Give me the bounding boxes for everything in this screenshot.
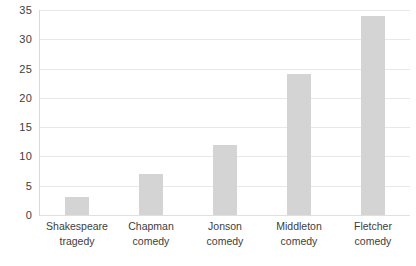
bar[interactable]: [65, 197, 89, 215]
bar-slot: [40, 10, 114, 215]
y-axis-tick-label: 15: [0, 122, 32, 133]
y-axis-tick-label: 5: [0, 180, 32, 191]
x-axis-tick-label: Fletcher comedy: [336, 219, 410, 265]
y-axis-tick-label: 20: [0, 92, 32, 103]
y-axis-tick-label: 30: [0, 34, 32, 45]
bars-layer: [40, 10, 410, 215]
bar-slot: [114, 10, 188, 215]
y-axis-tick-label: 10: [0, 151, 32, 162]
x-axis-tick-label: Jonson comedy: [188, 219, 262, 265]
plot-area: [40, 10, 410, 215]
bar-slot: [262, 10, 336, 215]
bar-chart: 05101520253035 Shakespeare tragedyChapma…: [0, 0, 416, 266]
bar[interactable]: [139, 174, 163, 215]
y-axis-tick-label: 35: [0, 5, 32, 16]
x-axis-tick-label: Shakespeare tragedy: [40, 219, 114, 265]
x-axis-tick-label: Chapman comedy: [114, 219, 188, 265]
bar[interactable]: [213, 145, 237, 215]
x-axis: Shakespeare tragedyChapman comedyJonson …: [40, 219, 410, 265]
bar[interactable]: [361, 16, 385, 215]
y-axis: 05101520253035: [0, 0, 32, 266]
y-axis-tick-label: 0: [0, 210, 32, 221]
axis-baseline: [40, 215, 410, 216]
x-axis-tick-label: Middleton comedy: [262, 219, 336, 265]
y-axis-tick-label: 25: [0, 63, 32, 74]
bar[interactable]: [287, 74, 311, 215]
bar-slot: [336, 10, 410, 215]
bar-slot: [188, 10, 262, 215]
